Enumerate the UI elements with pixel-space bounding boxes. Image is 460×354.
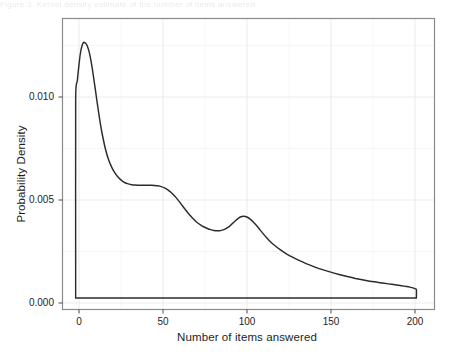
- x-tick-label-2: 100: [227, 316, 267, 327]
- density-plot-svg: [0, 0, 460, 354]
- x-axis-title: Number of items answered: [79, 331, 415, 343]
- y-axis-title: Probability Density: [15, 109, 27, 239]
- x-tick-label-3: 150: [311, 316, 351, 327]
- x-tick-label-0: 0: [59, 316, 99, 327]
- y-tick-label-2: 0.010: [14, 91, 54, 102]
- plot-panel-background: [63, 19, 435, 310]
- x-tick-label-4: 200: [395, 316, 435, 327]
- y-tick-label-0: 0.000: [14, 297, 54, 308]
- x-tick-label-1: 50: [143, 316, 183, 327]
- figure-container: Figure 3. Kernel density estimate of the…: [0, 0, 460, 354]
